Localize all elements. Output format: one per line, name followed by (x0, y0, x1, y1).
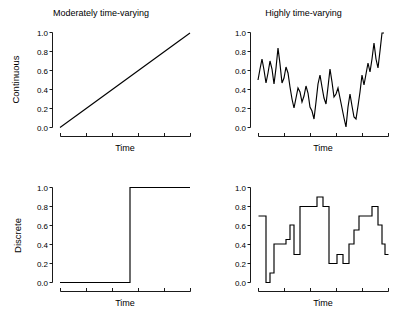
panel-bottom-left: Discrete 1.0 0.8 0.6 0.4 0.2 0.0 Time (0, 158, 202, 316)
panel-bottom-right: 1.0 0.8 0.6 0.4 0.2 0.0 Time (202, 158, 405, 316)
plot-area-top-left (0, 0, 202, 158)
x-axis-label-time: Time (293, 143, 353, 153)
series-line-highly-continuous (258, 33, 384, 127)
series-line-moderate-discrete (60, 188, 190, 283)
plot-area-top-right (202, 0, 405, 158)
x-axis-label-time: Time (95, 298, 155, 308)
series-line-highly-discrete (259, 197, 389, 283)
panel-top-right: Highly time-varying 1.0 0.8 0.6 0.4 0.2 … (202, 0, 405, 158)
plot-area-bottom-right (202, 158, 405, 316)
x-axis-label-time: Time (293, 298, 353, 308)
plot-area-bottom-left (0, 158, 202, 316)
figure-panel-grid: Moderately time-varying Continuous 1.0 0… (0, 0, 405, 316)
series-line-moderate-continuous (60, 33, 190, 128)
panel-top-left: Moderately time-varying Continuous 1.0 0… (0, 0, 202, 158)
x-axis-label-time: Time (95, 143, 155, 153)
